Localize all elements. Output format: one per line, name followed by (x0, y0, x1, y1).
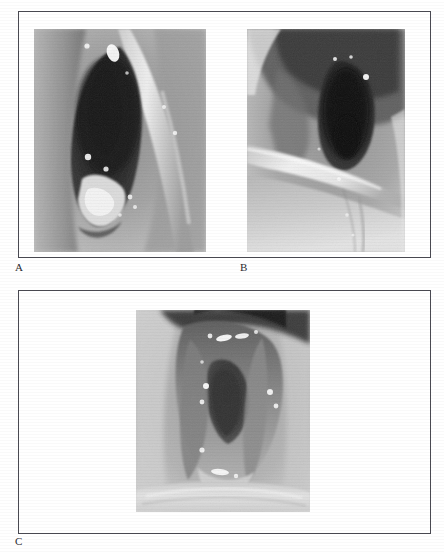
figure-page: A B (0, 0, 444, 552)
panel-a-photo (34, 29, 206, 252)
panel-c-caption: C (15, 536, 23, 547)
panel-a-caption: A (15, 262, 23, 273)
panel-a-image (34, 29, 206, 252)
panel-b-caption: B (240, 262, 248, 273)
panel-c-photo (136, 310, 310, 512)
panel-c-image (136, 310, 310, 512)
panel-b-image (247, 29, 405, 252)
panel-b-photo (247, 29, 405, 252)
